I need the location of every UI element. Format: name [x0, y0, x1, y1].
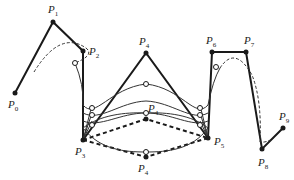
curve-left-solid	[75, 63, 83, 105]
control-point-p4-bottom	[144, 155, 149, 160]
point-label-p5: P5	[213, 135, 225, 150]
control-point-p8	[260, 147, 265, 152]
knot-point	[144, 82, 149, 87]
knot-point	[198, 113, 203, 118]
control-point-p3	[81, 138, 86, 143]
point-label-p1: P1	[47, 3, 59, 18]
point-label-p8: P8	[257, 156, 269, 171]
control-point-p1	[51, 20, 56, 25]
point-subscript: 8	[265, 163, 269, 171]
point-subscript: 7	[251, 41, 255, 49]
knot-point	[73, 61, 78, 66]
point-label-p3: P3	[74, 145, 86, 160]
control-polygon-top	[83, 53, 208, 140]
point-label-p6: P6	[205, 34, 217, 49]
point-subscript: 5	[221, 142, 225, 150]
point-subscript: 4	[146, 42, 150, 50]
knot-point	[144, 150, 149, 155]
point-subscript: 4	[155, 109, 159, 117]
point-label-p9: P9	[278, 110, 290, 125]
knot-point	[198, 106, 203, 111]
curve-top	[83, 84, 208, 109]
control-point-p2	[81, 49, 86, 54]
control-point-p4-top	[144, 51, 149, 56]
point-label-p4: P4	[147, 102, 159, 117]
control-polygon-left	[15, 22, 83, 140]
point-label-p4: P4	[137, 162, 149, 177]
control-point-p0	[13, 91, 18, 96]
point-subscript: 1	[55, 10, 59, 18]
knot-point	[90, 113, 95, 118]
point-label-p0: P0	[7, 98, 19, 113]
control-point-p7	[244, 50, 249, 55]
point-subscript: 4	[145, 169, 149, 177]
spline-diagram: P0P1P2P3P4P4P4P5P6P7P8P9	[0, 0, 294, 180]
curve-left-dashed	[34, 43, 89, 72]
knot-point	[90, 123, 95, 128]
point-subscript: 9	[286, 117, 290, 125]
point-label-p7: P7	[243, 34, 255, 49]
control-point-p9	[281, 126, 286, 131]
control-point-p4-mid	[144, 117, 149, 122]
knot-point	[90, 106, 95, 111]
curve-bottom	[83, 128, 208, 152]
point-label-p2: P2	[88, 45, 100, 60]
point-subscript: 0	[15, 105, 19, 113]
curve-right-dashed	[220, 58, 274, 142]
point-label-p4: P4	[138, 35, 150, 50]
control-point-p5	[206, 136, 211, 141]
point-subscript: 6	[213, 41, 217, 49]
control-point-p6	[210, 50, 215, 55]
knot-point	[214, 65, 219, 70]
point-subscript: 3	[82, 152, 86, 160]
point-subscript: 2	[96, 52, 100, 60]
knot-point	[198, 123, 203, 128]
